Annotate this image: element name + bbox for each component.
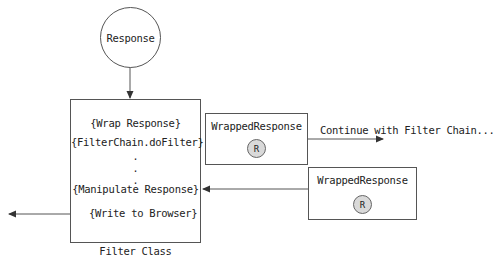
continue-label: Continue with Filter Chain... [320,124,495,136]
step-filterchain-dofilter: {FilterChain.doFilter} [71,136,200,148]
badge-letter: R [360,200,365,210]
response-badge-icon: R [353,195,372,214]
badge-letter: R [254,144,259,154]
wrapped-response-in-title: WrappedResponse [309,174,416,186]
response-badge-icon: R [247,139,266,158]
wrapped-response-in-box: WrappedResponse R [308,167,417,220]
step-write-to-browser: {Write to Browser} [87,207,199,219]
response-node: Response [100,7,161,68]
wrapped-response-out-title: WrappedResponse [206,120,307,132]
step-wrap-response: {Wrap Response} [71,117,200,129]
ellipsis-dot: . [71,154,200,160]
filter-class-caption: Filter Class [70,245,201,257]
step-manipulate-response: {Manipulate Response} [71,183,200,195]
wrapped-response-out-box: WrappedResponse R [205,113,308,165]
ellipsis-dot: . [71,166,200,172]
response-label: Response [106,32,154,44]
filter-class-box: {Wrap Response} {FilterChain.doFilter} .… [70,99,201,243]
